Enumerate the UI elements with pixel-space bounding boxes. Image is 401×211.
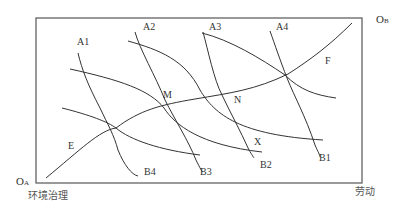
label-a1: A1	[77, 37, 89, 47]
origin-a-sub: A	[24, 179, 29, 187]
point-m-label: M	[163, 90, 172, 100]
label-b1: B1	[319, 153, 331, 163]
label-a4: A4	[276, 22, 288, 32]
point-x-label: X	[254, 137, 261, 147]
origin-b-label: OB	[376, 14, 389, 25]
axis-label-environment: 环境治理	[28, 191, 68, 201]
indifference-curve-b1	[202, 33, 336, 98]
label-b4: B4	[144, 167, 156, 177]
origin-b-main: O	[376, 13, 384, 25]
indifference-curve-a4	[270, 31, 320, 157]
label-b2: B2	[260, 160, 272, 170]
indifference-curve-a2	[135, 32, 203, 172]
point-n-label: N	[234, 95, 241, 105]
origin-b-sub: B	[384, 17, 389, 25]
indifference-curve-b2	[128, 41, 323, 140]
label-b3: B3	[200, 167, 212, 177]
label-e: E	[68, 141, 74, 151]
indifference-curve-b3	[70, 69, 262, 152]
label-f: F	[325, 56, 331, 66]
axis-label-labor: 劳动	[355, 187, 375, 197]
origin-a-label: OA	[16, 176, 29, 187]
edgeworth-box-diagram	[0, 0, 401, 211]
label-a3: A3	[209, 22, 221, 32]
indifference-curve-a1	[78, 53, 138, 176]
label-a2: A2	[143, 22, 155, 32]
origin-a-main: O	[16, 175, 24, 187]
